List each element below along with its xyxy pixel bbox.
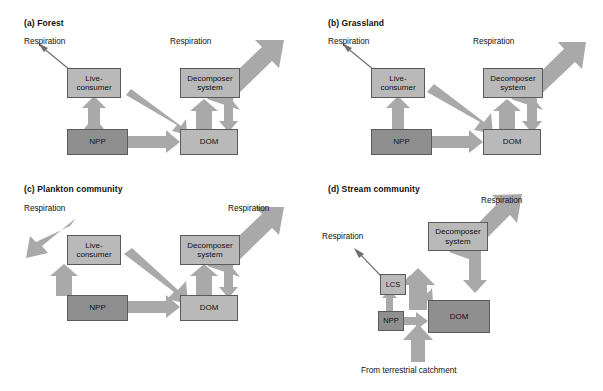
- box-dom-label: DOM: [200, 137, 219, 147]
- caption-respiration-left: Respiration: [328, 37, 369, 46]
- box-decomposer-system: Decomposer system: [180, 68, 240, 98]
- box-decomposer-line1: Decomposer: [187, 74, 232, 84]
- caption-respiration-right: Respiration: [228, 204, 269, 213]
- box-live-consumer: Live- consumer: [67, 68, 121, 98]
- panel-stream-arrows: [301, 180, 603, 391]
- box-npp-label: NPP: [383, 316, 398, 326]
- caption-respiration-left: Respiration: [24, 204, 65, 213]
- caption-respiration-right: Respiration: [170, 37, 211, 46]
- box-live-consumer-line1: Live-: [76, 74, 111, 84]
- box-decomposer-system: Decomposer system: [483, 68, 543, 98]
- arrow-npp-to-dom: [432, 130, 483, 153]
- arrow-dom-to-decomposer: [190, 264, 218, 295]
- arrow-dom-to-decomposer: [493, 99, 521, 129]
- arrow-npp-to-lc: [386, 96, 410, 129]
- box-live-consumer-line2: consumer: [76, 83, 111, 93]
- box-dom-label: DOM: [503, 137, 522, 147]
- box-lcs: LCS: [380, 274, 406, 295]
- arrow-npp-to-dom: [128, 130, 180, 153]
- caption-terrestrial-input: From terrestrial catchment: [361, 366, 457, 375]
- box-live-consumer-line1: Live-: [76, 241, 111, 251]
- box-decomposer-line1: Decomposer: [435, 227, 480, 237]
- box-npp-label: NPP: [89, 137, 105, 147]
- box-npp: NPP: [67, 129, 128, 155]
- arrow-dom-to-decomposer: [190, 99, 218, 129]
- panel-plankton-community: (c) Plankton community Live- consumer De…: [0, 180, 301, 391]
- box-npp: NPP: [378, 311, 404, 331]
- box-decomposer-line1: Decomposer: [187, 241, 232, 251]
- box-npp: NPP: [67, 295, 128, 321]
- box-lcs-label: LCS: [386, 280, 401, 290]
- box-decomposer-line2: system: [187, 250, 232, 260]
- box-decomposer-system: Decomposer system: [180, 235, 240, 265]
- ecosystem-energy-flow-figure: (a) Forest Live- consumer: [0, 0, 603, 391]
- panel-grassland-arrows: [301, 0, 603, 195]
- caption-respiration-right: Respiration: [481, 196, 522, 205]
- arrow-npp-to-lc-body: [82, 96, 106, 129]
- arrow-lc-respiration-thin: [342, 43, 374, 70]
- arrow-lcs-respiration-thin: [354, 248, 381, 276]
- box-npp-label: NPP: [393, 137, 409, 147]
- box-decomposer-line1: Decomposer: [490, 74, 535, 84]
- box-npp-label: NPP: [89, 303, 105, 313]
- box-decomposer-line2: system: [187, 83, 232, 93]
- arrow-lc-to-dom: [124, 248, 188, 304]
- box-dom: DOM: [180, 129, 238, 155]
- box-decomposer-line2: system: [490, 83, 535, 93]
- box-live-consumer-line1: Live-: [380, 74, 415, 84]
- arrow-lc-respiration-thin: [38, 43, 70, 70]
- box-dom: DOM: [180, 295, 238, 321]
- box-dom-label: DOM: [200, 303, 219, 313]
- box-dom: DOM: [483, 129, 541, 155]
- box-live-consumer: Live- consumer: [67, 235, 121, 265]
- arrow-lc-to-dom: [126, 89, 187, 135]
- box-live-consumer-line2: consumer: [76, 250, 111, 260]
- caption-respiration-right: Respiration: [473, 37, 514, 46]
- box-live-consumer: Live- consumer: [371, 68, 425, 98]
- box-dom-label: DOM: [450, 312, 469, 322]
- box-live-consumer-line2: consumer: [380, 83, 415, 93]
- box-npp: NPP: [371, 129, 432, 155]
- caption-respiration-left: Respiration: [24, 37, 65, 46]
- panel-stream-community: (d) Stream community LCS: [301, 180, 603, 391]
- box-decomposer-system: Decomposer system: [428, 222, 488, 251]
- caption-respiration-left: Respiration: [322, 232, 363, 241]
- panel-grassland: (b) Grassland Live- consumer Decomposer: [301, 0, 603, 195]
- box-dom: DOM: [428, 300, 490, 333]
- box-decomposer-line2: system: [435, 237, 480, 247]
- panel-forest-arrows: [0, 0, 301, 195]
- arrow-npp-to-lc: [50, 264, 78, 296]
- panel-forest: (a) Forest Live- consumer: [0, 0, 301, 195]
